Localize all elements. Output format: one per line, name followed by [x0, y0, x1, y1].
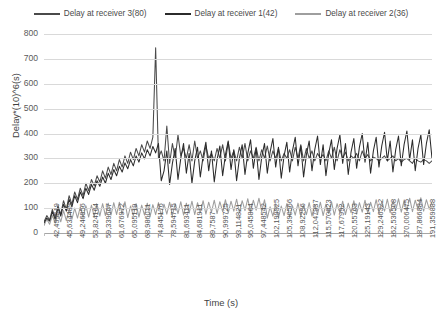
x-tick-label: 68,986011	[144, 204, 151, 238]
x-tick-label: 129,246322	[377, 199, 384, 238]
y-tick-label: 200	[2, 178, 38, 187]
x-tick-label: 162,536508	[390, 199, 397, 238]
x-tick-label: 105,390566	[286, 199, 293, 238]
x-tick-label: 187,866884	[416, 199, 423, 238]
x-tick-label: 65,095119	[131, 204, 138, 238]
gridline	[44, 134, 432, 135]
y-tick-label: 0	[2, 228, 38, 237]
x-tick-label: 102,199525	[273, 199, 280, 238]
x-tick-label: 49,246956	[79, 203, 86, 238]
x-tick-label: 112,047937	[312, 200, 319, 239]
x-tick-label: 59,339667	[105, 203, 112, 238]
x-tick-label: 120,55763	[351, 203, 358, 238]
x-tick-label: 45,634489	[66, 203, 73, 238]
y-tick-label: 800	[2, 29, 38, 38]
gridline	[44, 158, 432, 159]
y-tick-label: 300	[2, 153, 38, 162]
x-tick-label: 97,448542	[260, 203, 267, 238]
x-tick-label: 42,499519	[53, 203, 60, 238]
x-tick-label: 170,006475	[403, 199, 410, 238]
gridline	[44, 183, 432, 184]
plot-wrapper: Delay*(10)^6(s) 010020030040050060070080…	[0, 0, 442, 320]
y-tick-label: 400	[2, 129, 38, 138]
x-tickmark	[44, 233, 45, 236]
gridline	[44, 109, 432, 110]
x-tick-label: 81,693411	[183, 204, 190, 238]
gridline	[44, 59, 432, 60]
x-tick-label: 89,7587	[209, 211, 216, 238]
x-tick-label: 53,824164	[92, 203, 99, 238]
x-tick-label: 191,359888	[429, 199, 436, 238]
gridline	[44, 84, 432, 85]
x-tick-label: 93,114821	[235, 204, 242, 238]
x-tick-label: 117,67992	[338, 204, 345, 238]
x-tick-label: 95,045864	[247, 203, 254, 238]
y-tick-label: 500	[2, 104, 38, 113]
x-tick-label: 84,681911	[196, 204, 203, 238]
x-axis-tick-labels: 42,49951945,63448949,24695653,82416459,3…	[44, 238, 432, 300]
y-tick-label: 600	[2, 79, 38, 88]
y-tick-label: 700	[2, 54, 38, 63]
series-line	[44, 48, 432, 222]
gridline	[44, 34, 432, 35]
x-tick-label: 90,999725	[222, 203, 229, 238]
x-tick-label: 61,676972	[118, 203, 125, 238]
x-tick-label: 74,845176	[157, 203, 164, 238]
y-tick-label: 100	[2, 203, 38, 212]
chart-container: Delay at receiver 3(80) Delay at receive…	[0, 0, 442, 320]
x-tick-label: 78,594715	[170, 203, 177, 238]
x-tick-label: 108,92256	[299, 203, 306, 238]
x-tick-label: 125,19143	[364, 203, 371, 238]
x-axis-title: Time (s)	[0, 297, 442, 308]
x-tick-label: 115,570823	[325, 200, 332, 239]
